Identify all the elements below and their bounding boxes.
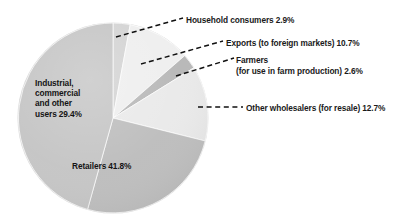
pie-label-retailers: Retailers 41.8% [72, 161, 131, 171]
pie-label-industrial-line1: Industrial, [35, 78, 109, 88]
pie-label-industrial-line3: and other [35, 98, 109, 108]
pie-label-farmers-line1: Farmers [236, 55, 363, 66]
pie-label-industrial-line2: commercial [35, 88, 109, 98]
pie-label-farmers: Farmers (for use in farm production) 2.6… [236, 55, 363, 76]
pie-chart-figure: Household consumers 2.9% Exports (to for… [0, 0, 399, 222]
pie-label-farmers-line2: (for use in farm production) 2.6% [236, 66, 363, 77]
pie-label-other-wholesalers: Other wholesalers (for resale) 12.7% [246, 103, 385, 114]
pie-label-industrial-commercial-other: Industrial, commercial and other users 2… [35, 78, 109, 119]
pie-label-household-consumers: Household consumers 2.9% [186, 15, 294, 26]
pie-label-exports: Exports (to foreign markets) 10.7% [226, 38, 360, 49]
pie-label-industrial-line4: users 29.4% [35, 109, 109, 119]
